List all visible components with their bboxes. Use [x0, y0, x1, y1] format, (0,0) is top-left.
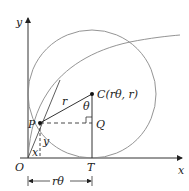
right-angle-mark: [86, 117, 92, 123]
radius-label: r: [62, 95, 68, 108]
cycloid-diagram: y x O P C(rθ, r) Q T r θ x y rθ: [0, 0, 189, 191]
x-length-label: x: [32, 146, 39, 159]
point-c-label: C(rθ, r): [97, 88, 138, 101]
y-length-label: y: [42, 135, 50, 148]
origin-label: O: [15, 161, 24, 174]
angle-label: θ: [83, 100, 90, 113]
point-q-label: Q: [96, 118, 105, 131]
x-axis-label: x: [178, 164, 185, 177]
y-axis-label: y: [15, 16, 23, 29]
point-c: [90, 92, 94, 96]
arc-length-label: rθ: [52, 175, 64, 188]
point-p-label: P: [27, 118, 36, 131]
point-p: [38, 121, 42, 125]
point-t-label: T: [87, 161, 96, 174]
